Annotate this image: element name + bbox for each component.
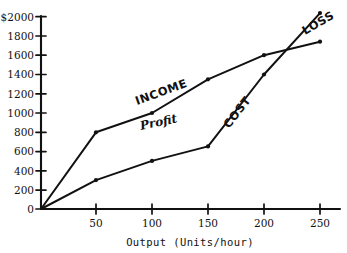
y-tick-label-2000: $2000 (1, 11, 34, 23)
data-point (318, 40, 322, 44)
income-line (41, 42, 320, 209)
y-tick-label-800: 800 (14, 126, 34, 138)
data-point (94, 178, 98, 182)
series-label-cost: COST (220, 94, 253, 131)
data-point (150, 159, 154, 163)
y-tick-label-1000: 1000 (7, 107, 34, 119)
data-point (206, 144, 210, 148)
series-label-profit: Profit (138, 111, 179, 133)
break-even-chart: $2000 1800 1600 1400 1200 1000 800 600 4… (0, 0, 347, 253)
y-tick-label-1600: 1600 (7, 49, 34, 61)
y-tick-label-200: 200 (14, 184, 34, 196)
data-point (262, 53, 266, 57)
y-tick-label-1200: 1200 (7, 88, 34, 100)
y-tick-label-400: 400 (14, 165, 34, 177)
data-point (150, 111, 154, 115)
series-label-income: INCOME (133, 76, 189, 108)
x-tick-label-250: 250 (310, 217, 330, 229)
x-axis-title: Output (Units/hour) (126, 236, 254, 248)
x-tick-label-50: 50 (89, 217, 102, 229)
y-tick-label-600: 600 (14, 145, 34, 157)
data-point (206, 77, 210, 81)
x-tick-labels: 50 100 150 200 250 (89, 217, 330, 229)
x-tick-label-150: 150 (198, 217, 218, 229)
x-tick-label-200: 200 (254, 217, 274, 229)
cost-data-points (94, 11, 322, 182)
data-point (262, 72, 266, 76)
y-tick-label-0: 0 (27, 203, 34, 215)
cost-line (41, 13, 320, 209)
x-tick-label-100: 100 (142, 217, 162, 229)
y-tick-label-1400: 1400 (7, 68, 34, 80)
chart-container: $2000 1800 1600 1400 1200 1000 800 600 4… (0, 0, 347, 253)
data-point (94, 130, 98, 134)
y-tick-label-1800: 1800 (7, 30, 34, 42)
y-tick-labels: $2000 1800 1600 1400 1200 1000 800 600 4… (1, 11, 34, 215)
